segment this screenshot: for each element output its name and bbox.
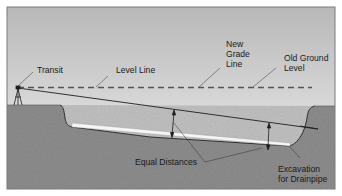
label-level-line: Level Line <box>116 65 155 75</box>
label-transit: Transit <box>37 65 64 75</box>
drainpipe-grade-diagram: Transit Level Line New Grade Line Old Gr… <box>0 0 342 196</box>
label-equal-distances: Equal Distances <box>135 157 197 167</box>
label-excavation: Excavation for Drainpipe <box>278 164 327 184</box>
